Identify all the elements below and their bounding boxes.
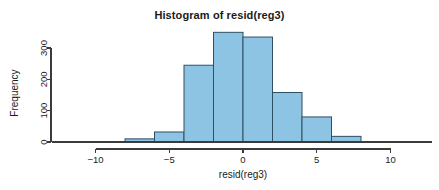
histogram-bar: [243, 37, 273, 142]
x-axis-tick-label: −5: [164, 154, 175, 165]
histogram-plot: Histogram of resid(reg3) −10−50510 01002…: [0, 0, 439, 190]
histogram-bar: [184, 65, 214, 142]
x-axis-tick-label: 0: [240, 154, 245, 165]
histogram-bar: [302, 117, 332, 142]
histogram-bar: [155, 132, 185, 142]
x-axis-title: resid(reg3): [219, 169, 267, 180]
y-axis-tick-label: 0: [38, 139, 49, 144]
y-axis-title: Frequency: [9, 69, 20, 116]
y-axis-tick-label: 100: [38, 103, 49, 119]
y-axis-tick-label: 300: [38, 40, 49, 56]
y-axis-tick-label: 200: [38, 71, 49, 87]
histogram-bar: [214, 32, 244, 142]
x-axis: −10−50510: [52, 142, 432, 165]
x-axis-tick-label: 5: [314, 154, 319, 165]
chart-canvas: −10−50510 0100200300 resid(reg3) Frequen…: [0, 0, 439, 190]
x-axis-tick-label: 10: [385, 154, 396, 165]
bars-group: [125, 32, 361, 142]
y-axis: 0100200300: [38, 40, 51, 145]
x-axis-tick-label: −10: [87, 154, 103, 165]
histogram-bar: [332, 136, 362, 142]
histogram-bar: [273, 92, 303, 142]
